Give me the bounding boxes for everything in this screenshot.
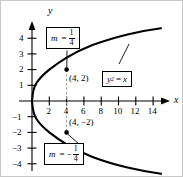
slope-lower-fraction: 1 4: [73, 145, 79, 163]
callout-equation: y2 = x: [102, 71, 132, 87]
point-label-upper: (4, 2): [69, 74, 89, 83]
x-axis-label: x: [174, 95, 178, 105]
slope-lower-denominator: 4: [73, 155, 79, 163]
point-label-lower: (4, −2): [69, 118, 94, 127]
point-marker-lower: [64, 130, 69, 135]
y-tick-label-1: 1: [19, 81, 24, 90]
x-tick-label-10: 10: [113, 107, 122, 116]
leader-line-equation: [119, 44, 129, 64]
slope-upper-equals: =: [62, 34, 67, 43]
y-tick-label-neg1: −1: [12, 113, 22, 122]
plot-canvas: [1, 1, 183, 177]
callout-slope-lower: m = − 1 4: [44, 143, 84, 165]
x-tick-label-14: 14: [148, 107, 157, 116]
slope-upper-denominator: 4: [69, 39, 75, 47]
slope-upper-fraction: 1 4: [69, 29, 75, 47]
slope-lower-equals: =: [60, 150, 65, 159]
y-axis-label: y: [48, 6, 52, 16]
x-axis: [19, 98, 170, 105]
x-tick-label-12: 12: [131, 107, 140, 116]
y-tick-label-neg2: −2: [12, 128, 22, 137]
equation-exponent: 2: [111, 76, 114, 82]
y-tick-label-4: 4: [19, 34, 24, 43]
y-tick-label-neg4: −4: [12, 160, 22, 169]
y-tick-label-3: 3: [19, 50, 24, 59]
y-tick-label-2: 2: [19, 65, 24, 74]
x-tick-label-4: 4: [64, 107, 69, 116]
x-tick-label-8: 8: [98, 107, 103, 116]
slope-upper-variable: m: [51, 34, 58, 43]
y-tick-label-neg3: −3: [12, 144, 22, 153]
equation-rhs: x: [123, 75, 127, 84]
slope-lower-sign: −: [67, 150, 72, 159]
slope-lower-numerator: 1: [73, 145, 79, 153]
slope-lower-variable: m: [49, 150, 56, 159]
callout-slope-upper: m = 1 4: [46, 27, 80, 49]
equation-equals: =: [116, 75, 121, 84]
x-tick-label-6: 6: [81, 107, 86, 116]
x-tick-label-2: 2: [47, 107, 52, 116]
math-figure: y x 4 3 2 1 −1 −2 −3 −4 2 4 6 8 10 12 14…: [0, 0, 183, 177]
slope-upper-numerator: 1: [69, 29, 75, 37]
point-marker-upper: [64, 67, 69, 72]
